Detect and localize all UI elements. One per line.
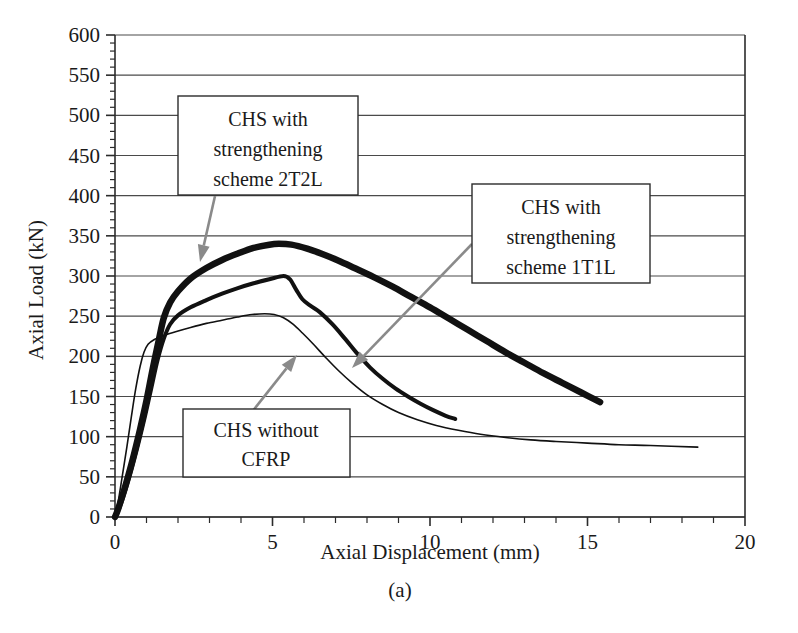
- arrow-to-1t1l-curve-shaft: [364, 244, 472, 356]
- annotation-1t1l-line1: CHS with: [521, 196, 600, 218]
- annotation-box-1t1l: CHS with strengthening scheme 1T1L: [472, 184, 650, 283]
- annotation-box-no-cfrp: CHS without CFRP: [183, 409, 350, 477]
- y-tick-label: 100: [69, 425, 101, 449]
- axial-load-displacement-chart: 05101520 0501001502002503003504004505005…: [0, 0, 798, 633]
- annotation-2t2l-line2: strengthening: [214, 138, 323, 161]
- y-axis-title: Axial Load (kN): [24, 220, 48, 360]
- arrow-to-2t2l-curve: [198, 196, 215, 262]
- x-tick-label: 15: [577, 530, 598, 554]
- annotation-2t2l-line1: CHS with: [228, 108, 307, 130]
- x-tick-label: 0: [110, 530, 121, 554]
- arrow-to-1t1l-curve: [352, 244, 472, 368]
- annotation-no-cfrp-line1: CHS without: [213, 419, 318, 441]
- figure-caption: (a): [388, 578, 411, 602]
- y-tick-label: 200: [69, 344, 101, 368]
- y-tick-label: 350: [69, 224, 101, 248]
- arrow-to-2t2l-curve-shaft: [204, 196, 215, 245]
- figure-container: 05101520 0501001502002503003504004505005…: [0, 0, 798, 633]
- y-tick-label: 550: [69, 63, 101, 87]
- y-tick-label: 600: [69, 23, 101, 47]
- arrow-to-no-cfrp-curve-shaft: [252, 368, 286, 412]
- x-axis-title: Axial Displacement (mm): [320, 540, 539, 564]
- y-tick-labels: 050100150200250300350400450500550600: [69, 23, 101, 529]
- y-tick-label: 0: [90, 505, 101, 529]
- arrow-to-2t2l-curve-head: [198, 244, 210, 262]
- x-tick-label: 5: [267, 530, 278, 554]
- annotation-1t1l-line3: scheme 1T1L: [506, 256, 615, 278]
- y-tick-label: 500: [69, 103, 101, 127]
- y-tick-label: 150: [69, 385, 101, 409]
- annotation-arrows: [198, 196, 472, 412]
- annotation-1t1l-line2: strengthening: [507, 226, 616, 249]
- y-tick-label: 450: [69, 144, 101, 168]
- y-tick-label: 300: [69, 264, 101, 288]
- arrow-to-no-cfrp-curve: [252, 355, 297, 412]
- y-tick-label: 50: [79, 465, 100, 489]
- y-tick-label: 250: [69, 304, 101, 328]
- annotation-box-2t2l: CHS with strengthening scheme 2T2L: [178, 96, 358, 195]
- annotation-2t2l-line3: scheme 2T2L: [213, 168, 322, 190]
- annotation-no-cfrp-line2: CFRP: [242, 448, 291, 470]
- y-tick-label: 400: [69, 184, 101, 208]
- x-tick-label: 20: [735, 530, 756, 554]
